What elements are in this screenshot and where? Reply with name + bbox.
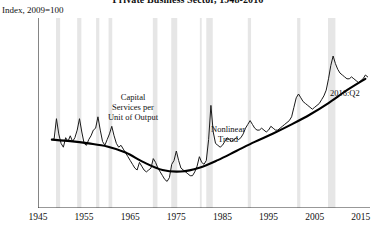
chart-svg — [38, 18, 370, 208]
x-axis-label: 1945 — [18, 212, 58, 222]
series-annotation-line2: Services per — [94, 102, 172, 112]
x-axis-label: 1975 — [156, 212, 196, 222]
series-annotation-line1: Capital — [94, 92, 172, 102]
recession-band — [56, 18, 60, 208]
recession-band — [171, 18, 177, 208]
endpoint-annotation: 2016:Q2 — [330, 88, 374, 98]
x-axis-label: 1995 — [249, 212, 289, 222]
series-annotation: Capital Services per Unit of Output — [94, 92, 172, 122]
recession-band — [77, 18, 81, 208]
x-axis-label: 1955 — [64, 212, 104, 222]
x-axis-label: 1965 — [110, 212, 150, 222]
x-axis-label: 2005 — [295, 212, 335, 222]
trend-annotation-line2: Trend — [200, 134, 256, 144]
series-annotation-line3: Unit of Output — [94, 112, 172, 122]
x-axis-label: 2015 — [341, 212, 376, 222]
trend-annotation-line1: Nonlinear — [200, 124, 256, 134]
x-axis-label: 1985 — [202, 212, 242, 222]
recession-band — [200, 18, 202, 208]
recession-band — [328, 18, 335, 208]
trend-annotation: Nonlinear Trend — [200, 124, 256, 144]
chart-root: Private Business Sector, 1948-2016 Index… — [0, 0, 376, 235]
recession-band — [297, 18, 300, 208]
plot-area — [38, 18, 370, 208]
index-note: Index, 2009=100 — [2, 5, 64, 15]
recession-band — [248, 18, 251, 208]
